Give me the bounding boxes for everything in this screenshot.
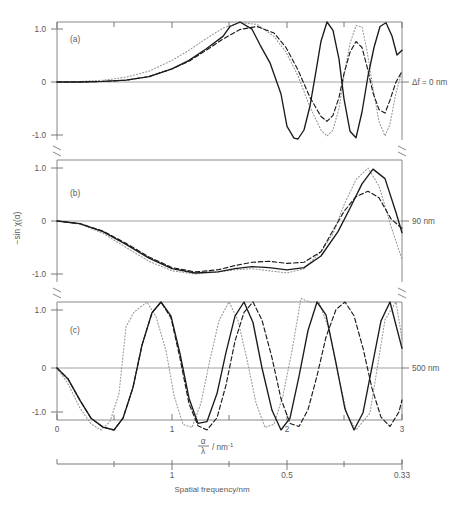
x-axis-primary-title: α λ / nm-1 (198, 437, 234, 456)
panel-c-series-dashed (57, 302, 402, 430)
axis-break-left-1 (53, 146, 61, 156)
panel-b-series-dashed (57, 191, 402, 272)
panel-c-side-label: 500 nm (412, 364, 439, 373)
panel-a-series-dotted (57, 23, 402, 136)
x-tick-label-3: 3 (400, 425, 405, 434)
panel-c: 1.0 0 -1.0 (c) 500 nm (32, 299, 440, 431)
axis-break-left-2 (53, 288, 61, 298)
panel-a-curves (57, 22, 402, 139)
panel-a-series-solid (57, 22, 402, 139)
ctf-figure: 1.0 0 -1.0 (a) Δf = 0 nm 1.0 0 -1.0 (b) … (0, 0, 460, 508)
panel-c-frame (57, 302, 402, 420)
secondary-tick-label-1: 1 (170, 471, 175, 480)
panel-c-ylabel-top: 1.0 (35, 306, 47, 315)
axis-break-a-b (53, 146, 406, 156)
x-axis-title-denominator: λ (201, 447, 206, 456)
x-axis-title-numerator: α (201, 437, 206, 446)
panel-c-curves (57, 299, 402, 431)
secondary-tick-label-033: 0.33 (394, 471, 410, 480)
axis-break-right-1 (398, 146, 406, 156)
y-axis-title: −sin χ(α) (12, 211, 22, 244)
secondary-axis-title: Spatial frequency/nm (174, 485, 249, 494)
panel-a-ylabel-mid: 0 (41, 78, 46, 87)
x-axis-secondary: 1 0.5 0.33 Spatial frequency/nm (57, 459, 410, 494)
panel-b-side-label: 90 nm (412, 217, 435, 226)
x-axis-title-units: / nm-1 (212, 442, 234, 452)
panel-b: 1.0 0 -1.0 (b) 90 nm (32, 160, 435, 282)
panel-b-ylabel-top: 1.0 (35, 164, 47, 173)
panel-a: 1.0 0 -1.0 (a) Δf = 0 nm (32, 22, 448, 140)
panel-c-ylabel-bottom: -1.0 (32, 408, 47, 417)
panel-c-series-dotted (57, 299, 402, 431)
x-tick-label-2: 2 (285, 425, 290, 434)
axis-break-right-2 (398, 288, 406, 298)
panel-c-label: (c) (70, 325, 80, 335)
panel-a-ylabel-top: 1.0 (35, 25, 47, 34)
secondary-tick-label-05: 0.5 (281, 471, 293, 480)
panel-a-side-label: Δf = 0 nm (412, 78, 447, 87)
panel-b-ylabel-bottom: -1.0 (32, 270, 47, 279)
panel-a-label: (a) (70, 34, 80, 44)
panel-c-ylabel-mid: 0 (41, 364, 46, 373)
panel-a-series-dashed (57, 27, 402, 122)
panel-b-label: (b) (70, 188, 80, 198)
panel-a-ylabel-bottom: -1.0 (32, 131, 47, 140)
x-tick-label-0: 0 (55, 425, 60, 434)
figure-canvas: 1.0 0 -1.0 (a) Δf = 0 nm 1.0 0 -1.0 (b) … (0, 0, 460, 508)
panel-b-ylabel-mid: 0 (41, 217, 46, 226)
x-tick-label-1: 1 (170, 425, 175, 434)
axis-break-b-c (53, 288, 406, 298)
